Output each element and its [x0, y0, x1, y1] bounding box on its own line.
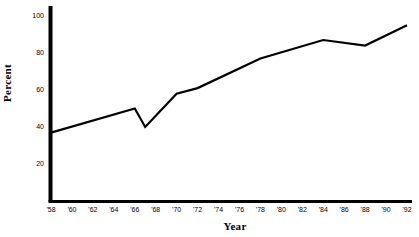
y-tick-label: 20	[18, 160, 44, 167]
x-tick-label: '64	[104, 206, 124, 213]
x-axis-title-wrapper: Year	[200, 220, 270, 232]
y-axis-title: Percent	[1, 64, 13, 102]
y-tick-label: 80	[18, 49, 44, 56]
x-tick-label: '60	[62, 206, 82, 213]
data-series-line	[51, 25, 407, 132]
x-tick-label: '76	[229, 206, 249, 213]
x-tick-label: '58	[41, 206, 61, 213]
x-tick-label: '88	[355, 206, 375, 213]
plot-area	[0, 0, 419, 237]
x-axis-title: Year	[223, 220, 246, 232]
x-tick-label: '92	[397, 206, 417, 213]
y-tick-label: 40	[18, 123, 44, 130]
x-tick-label: '62	[83, 206, 103, 213]
x-tick-label: '72	[188, 206, 208, 213]
x-tick-label: '86	[334, 206, 354, 213]
x-tick-label: '70	[167, 206, 187, 213]
x-tick-label: '66	[125, 206, 145, 213]
x-tick-label: '80	[271, 206, 291, 213]
y-tick-label: 60	[18, 86, 44, 93]
x-tick-label: '78	[250, 206, 270, 213]
y-axis-title-wrapper: Percent	[1, 48, 13, 118]
x-tick-label: '82	[292, 206, 312, 213]
x-tick-label: '84	[313, 206, 333, 213]
x-tick-label: '74	[209, 206, 229, 213]
y-tick-label: 100	[18, 12, 44, 19]
x-tick-label: '68	[146, 206, 166, 213]
line-chart: Percent Year 20406080100 '58'60'62'64'66…	[0, 0, 419, 237]
x-tick-label: '90	[376, 206, 396, 213]
